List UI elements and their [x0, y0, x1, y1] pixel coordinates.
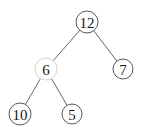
node-label: 5: [68, 107, 76, 123]
node-label: 10: [13, 107, 28, 123]
tree-node-10: 10: [9, 103, 31, 125]
edge-n12-n6: [53, 30, 80, 60]
tree-node-7: 7: [113, 59, 133, 79]
tree-node-12: 12: [76, 11, 98, 33]
tree-node-6: 6: [35, 58, 57, 80]
node-label: 12: [80, 15, 95, 31]
node-label: 7: [119, 62, 127, 78]
tree-node-5: 5: [62, 104, 82, 124]
node-label: 6: [42, 62, 50, 78]
edge-n6-n10: [26, 79, 41, 105]
binary-tree-diagram: 1267105: [0, 0, 143, 131]
tree-nodes: 1267105: [9, 11, 133, 125]
edge-n12-n7: [94, 31, 117, 61]
edge-n6-n5: [52, 79, 67, 106]
